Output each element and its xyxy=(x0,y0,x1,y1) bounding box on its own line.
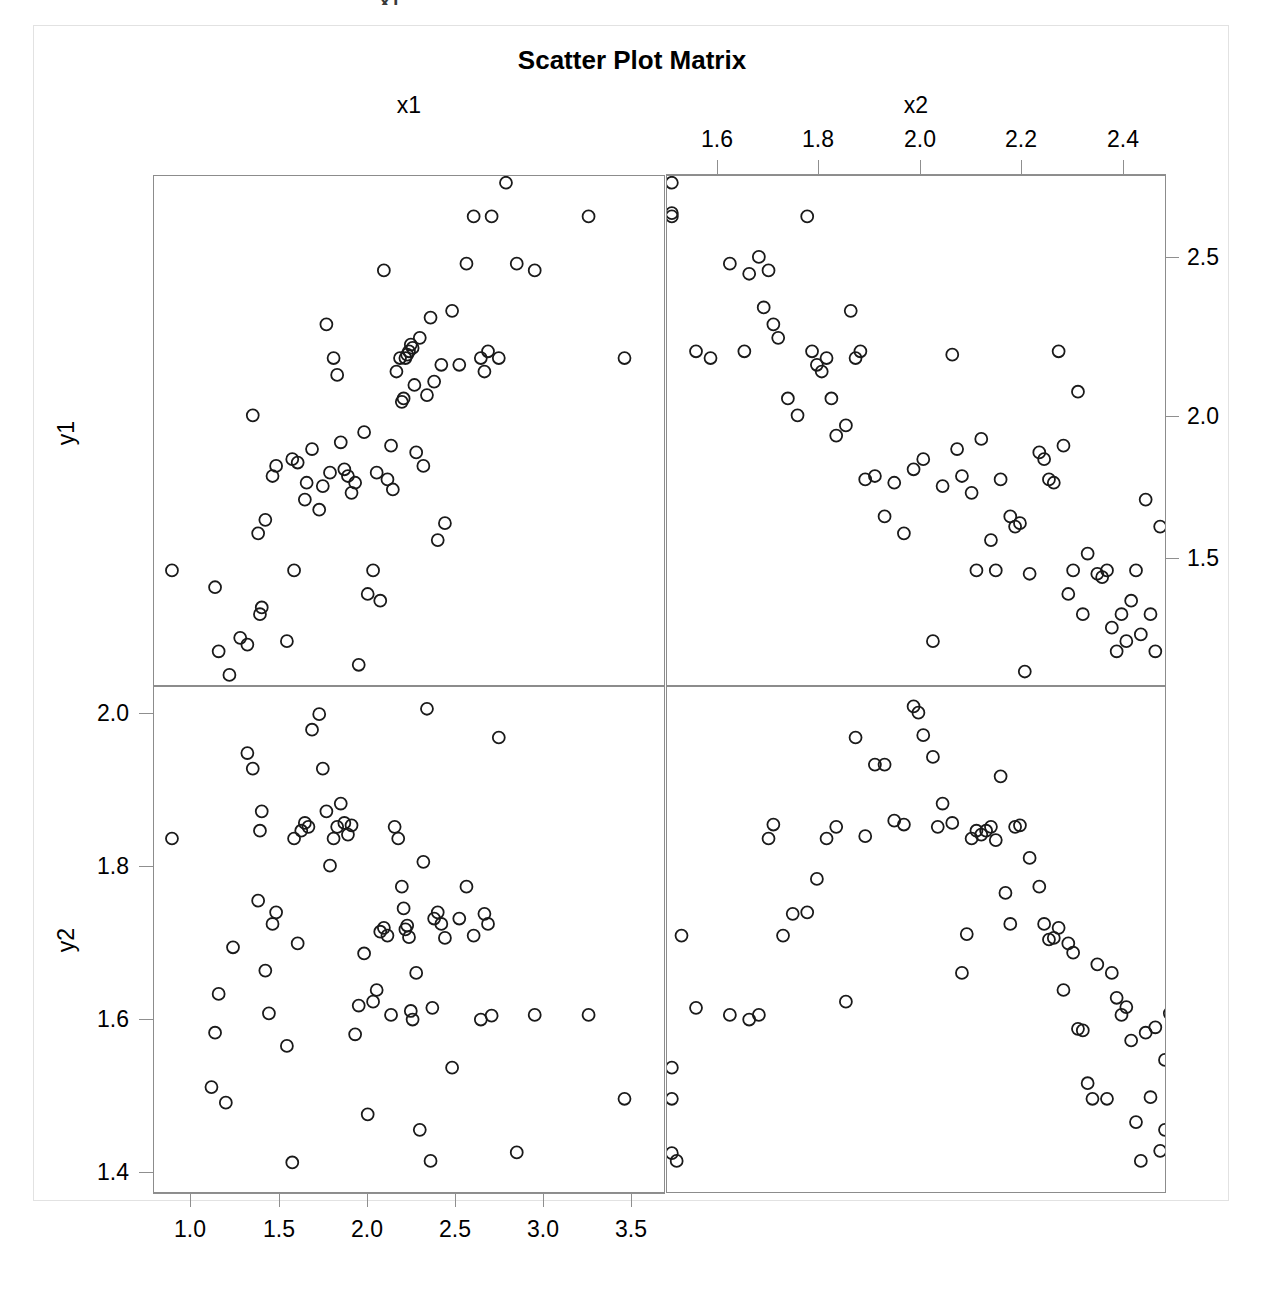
x1-tick-label-5: 3.5 xyxy=(591,1216,671,1243)
y2-tick-label-3: 2.0 xyxy=(49,700,129,727)
x1-tick-label-3: 2.5 xyxy=(415,1216,495,1243)
panel-y1-vs-x2[interactable] xyxy=(666,175,1166,686)
panel-y1-vs-x1[interactable] xyxy=(153,175,665,686)
y1-tick-label-1: 2.0 xyxy=(1187,403,1257,430)
scatter-plot-matrix-figure: x1 Scatter Plot Matrix x1 x2 y1 y2 1.6 1… xyxy=(0,0,1264,1290)
top-cutoff-text: x1 xyxy=(330,0,450,5)
y2-tick-label-1: 1.6 xyxy=(49,1006,129,1033)
column-label-x2: x2 xyxy=(666,92,1166,119)
row-label-y2: y2 xyxy=(51,910,81,970)
y1-tick-label-2: 2.5 xyxy=(1187,244,1257,271)
x1-tick-label-4: 3.0 xyxy=(503,1216,583,1243)
panel-y1-vs-x2-canvas xyxy=(667,176,1165,685)
panel-y2-vs-x2[interactable] xyxy=(666,686,1166,1193)
x1-tick-label-1: 1.5 xyxy=(239,1216,319,1243)
x2-tick-label-1: 1.8 xyxy=(778,126,858,153)
panel-y2-vs-x1[interactable] xyxy=(153,686,665,1193)
panel-y1-vs-x1-canvas xyxy=(154,176,664,685)
row-label-y1: y1 xyxy=(51,403,81,463)
x2-tick-label-2: 2.0 xyxy=(880,126,960,153)
page-title: Scatter Plot Matrix xyxy=(0,45,1264,76)
y1-tick-label-0: 1.5 xyxy=(1187,545,1257,572)
x1-tick-label-2: 2.0 xyxy=(327,1216,407,1243)
x1-tick-label-0: 1.0 xyxy=(150,1216,230,1243)
y2-tick-label-2: 1.8 xyxy=(49,853,129,880)
x2-tick-label-4: 2.4 xyxy=(1083,126,1163,153)
panel-y2-vs-x1-canvas xyxy=(154,687,664,1192)
x2-tick-label-3: 2.2 xyxy=(981,126,1061,153)
column-label-x1: x1 xyxy=(153,92,665,119)
panel-y2-vs-x2-canvas xyxy=(667,687,1165,1192)
y2-tick-label-0: 1.4 xyxy=(49,1159,129,1186)
x2-tick-label-0: 1.6 xyxy=(677,126,757,153)
